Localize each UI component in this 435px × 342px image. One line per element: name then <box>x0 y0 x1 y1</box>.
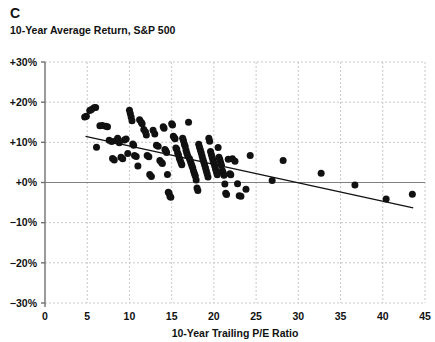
svg-text:+10%: +10% <box>10 136 38 148</box>
svg-text:30: 30 <box>292 310 304 322</box>
svg-text:+20%: +20% <box>10 96 38 108</box>
svg-text:20: 20 <box>208 310 220 322</box>
svg-text:−30%: −30% <box>10 297 38 309</box>
svg-text:10: 10 <box>124 310 136 322</box>
svg-text:+30%: +30% <box>10 56 38 68</box>
svg-text:5: 5 <box>84 310 90 322</box>
y-axis-tick-labels: −30%−20%−10%+0%+10%+20%+30% <box>10 56 38 309</box>
svg-text:25: 25 <box>250 310 262 322</box>
svg-text:45: 45 <box>419 310 431 322</box>
svg-text:−10%: −10% <box>10 216 38 228</box>
svg-text:+0%: +0% <box>16 176 38 188</box>
svg-text:0: 0 <box>42 310 48 322</box>
trend-line <box>86 136 414 207</box>
chart-figure: C 10-Year Average Return, S&P 500 −30%−2… <box>0 0 435 342</box>
scatter-plot: −30%−20%−10%+0%+10%+20%+30% 051015202530… <box>0 0 435 342</box>
svg-text:15: 15 <box>166 310 178 322</box>
svg-text:−20%: −20% <box>10 257 38 269</box>
x-axis-tick-labels: 051015202530354045 <box>42 310 431 322</box>
x-axis-title: 10-Year Trailing P/E Ratio <box>172 327 299 339</box>
y-axis-ticks <box>41 62 425 307</box>
svg-text:35: 35 <box>335 310 347 322</box>
svg-text:40: 40 <box>377 310 389 322</box>
data-points <box>81 104 416 203</box>
svg-text:10-Year Trailing P/E Ratio: 10-Year Trailing P/E Ratio <box>172 327 299 339</box>
